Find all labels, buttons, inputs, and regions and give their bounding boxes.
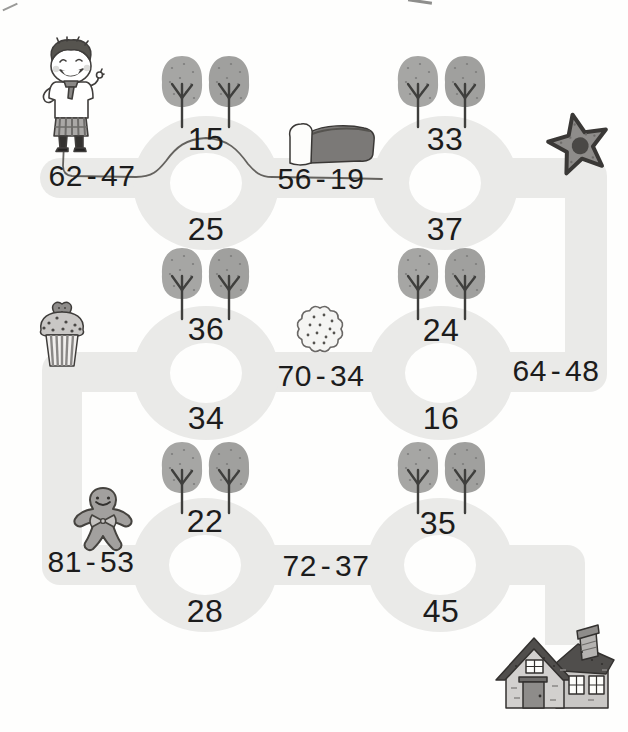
- ring1-top-answer: 15: [188, 121, 225, 158]
- equation-1: 62 - 47: [49, 159, 136, 193]
- ring4-bottom-answer: 16: [423, 400, 460, 437]
- equation-2: 56 - 19: [278, 162, 365, 196]
- tree-pair-icon: [158, 54, 254, 128]
- ring3-top-answer: 36: [188, 311, 225, 348]
- equation-4: 70 - 34: [278, 359, 365, 393]
- ring4-top-answer: 24: [423, 312, 460, 349]
- house-icon: [492, 618, 616, 716]
- ring6-bottom-answer: 45: [423, 593, 460, 630]
- tree-pair-icon: [394, 246, 490, 320]
- boy-icon: [32, 36, 110, 152]
- ring2-bottom-answer: 37: [427, 211, 464, 248]
- star-icon: [544, 111, 614, 179]
- ring6-top-answer: 35: [420, 505, 457, 542]
- equation-3: 64 - 48: [513, 354, 600, 388]
- ring1-bottom-answer: 25: [188, 211, 225, 248]
- cupcake-icon: [35, 300, 89, 368]
- bread-icon: [282, 120, 378, 168]
- ring3-bottom-answer: 34: [188, 400, 225, 437]
- cookie-icon: [294, 303, 346, 355]
- tree-pair-icon: [394, 440, 490, 514]
- ring2-top-answer: 33: [427, 121, 464, 158]
- equation-6: 72 - 37: [283, 549, 370, 583]
- worksheet-page: 15 25 33 37 36 34 24 16 22 28 35 45 62 -…: [0, 0, 628, 732]
- tree-pair-icon: [394, 54, 490, 128]
- tree-pair-icon: [158, 246, 254, 320]
- ring5-bottom-answer: 28: [187, 593, 224, 630]
- ring5-top-answer: 22: [187, 503, 224, 540]
- equation-5: 81 - 53: [48, 545, 135, 579]
